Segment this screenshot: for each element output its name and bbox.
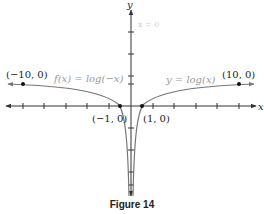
label-point-neg1: (−1, 0) [92, 113, 127, 124]
label-point-pos10: (10, 0) [222, 69, 255, 80]
point-neg1 [118, 104, 122, 108]
point-pos1 [140, 104, 144, 108]
label-left-function: f(x) = log(−x) [53, 73, 123, 84]
asymptote-label: x = 0 [138, 20, 159, 29]
label-point-pos1: (1, 0) [143, 113, 170, 124]
x-axis-label: x [258, 101, 264, 112]
label-right-function: y = log(x) [165, 74, 216, 85]
x-axis: x [6, 101, 264, 112]
curve-log-x [133, 84, 254, 196]
figure-caption: Figure 14 [0, 199, 264, 210]
y-axis: y [126, 0, 134, 196]
log-graph: x y x = 0 (−10, 0) (−1, 0) (1, 0) (10, 0… [0, 0, 264, 214]
y-axis-label: y [126, 0, 133, 10]
curve-log-neg-x [8, 84, 129, 196]
point-pos10 [237, 82, 241, 86]
label-point-neg10: (−10, 0) [6, 69, 48, 80]
point-neg10 [21, 82, 25, 86]
